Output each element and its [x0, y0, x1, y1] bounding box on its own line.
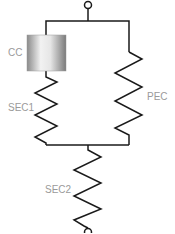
pec-label: PEC: [147, 92, 168, 102]
sec1-label: SEC1: [8, 103, 34, 113]
muscle-model-diagram: [0, 0, 175, 233]
pec-spring: [115, 52, 142, 145]
bottom-terminal-icon: [85, 229, 92, 234]
cc-element: [27, 35, 66, 71]
sec2-label: SEC2: [45, 185, 71, 195]
cc-label: CC: [8, 48, 22, 58]
top-terminal-icon: [85, 2, 92, 9]
sec2-spring: [74, 145, 101, 228]
sec1-spring: [35, 71, 57, 145]
